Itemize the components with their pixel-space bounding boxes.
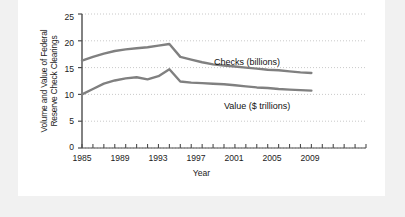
x-axis-title: Year: [18, 168, 385, 178]
y-tick-label-25: 25: [52, 13, 74, 22]
y-tick-label-5: 5: [52, 117, 74, 126]
y-tick-label-15: 15: [52, 65, 74, 74]
y-axis-title: Volume and Value of Federal Reserve Chec…: [18, 6, 80, 156]
x-tick-label-2009: 2009: [290, 154, 330, 163]
x-tick-label-1989: 1989: [100, 154, 140, 163]
series-line-value: [82, 69, 311, 94]
chart-panel: Volume and Value of Federal Reserve Chec…: [18, 0, 385, 196]
figure-root: Volume and Value of Federal Reserve Chec…: [0, 0, 405, 217]
gridlines: [78, 14, 366, 148]
y-tick-label-10: 10: [52, 91, 74, 100]
series-label-checks: Checks (billions): [214, 57, 280, 67]
x-tick-label-2001: 2001: [214, 154, 254, 163]
y-tick-label-20: 20: [52, 39, 74, 48]
y-tick-label-0: 0: [52, 143, 74, 152]
x-tick-label-1997: 1997: [176, 154, 216, 163]
chart-plot-area: Volume and Value of Federal Reserve Chec…: [18, 0, 385, 196]
x-tick-label-1985: 1985: [62, 154, 102, 163]
series-label-value: Value ($ trillions): [224, 101, 290, 111]
x-tick-label-2005: 2005: [252, 154, 292, 163]
x-tick-label-1993: 1993: [138, 154, 178, 163]
